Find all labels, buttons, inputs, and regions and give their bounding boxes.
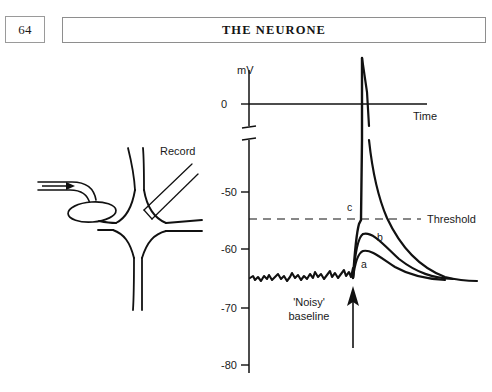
y-tick-label-0: 0 (221, 98, 227, 110)
arrow-right-icon (42, 182, 75, 190)
dendrites (98, 148, 202, 231)
noisy-baseline-label-line1: 'Noisy' (293, 296, 325, 308)
figure-area: Record 0 -50 -60 -70 -80 (0, 48, 492, 392)
plot-axes (249, 70, 427, 373)
chapter-title-box: THE NEURONE (62, 17, 486, 43)
x-axis-label: Time (413, 110, 437, 122)
y-tick-label-minus-80: -80 (221, 359, 237, 371)
voltage-trace-plot: 0 -50 -60 -70 -80 mV Time Threshold a b … (205, 48, 492, 392)
y-tick-label-minus-70: -70 (221, 302, 237, 314)
arrow-up-icon (347, 286, 359, 348)
y-tick-label-minus-50: -50 (221, 186, 237, 198)
axis-break-icon (242, 126, 256, 140)
epsp-curve-b (353, 234, 453, 279)
noisy-baseline-label-line2: baseline (289, 310, 330, 322)
chapter-title: THE NEURONE (222, 23, 326, 38)
threshold-label: Threshold (427, 213, 476, 225)
page-number-box: 64 (5, 16, 45, 43)
neuron-diagram: Record (20, 138, 210, 313)
curve-label-b: b (377, 231, 383, 243)
cell-body (113, 190, 166, 258)
y-tick-label-minus-60: -60 (221, 243, 237, 255)
axon (133, 258, 142, 310)
running-head: 64 THE NEURONE (0, 0, 492, 48)
y-axis-label: mV (237, 64, 254, 76)
curve-label-a: a (361, 258, 367, 270)
synaptic-bouton (67, 200, 116, 223)
y-axis-ticks (241, 104, 249, 365)
curve-label-c: c (347, 201, 352, 213)
page-number: 64 (18, 22, 32, 38)
record-label: Record (160, 145, 195, 157)
noisy-baseline-trace (250, 268, 353, 281)
